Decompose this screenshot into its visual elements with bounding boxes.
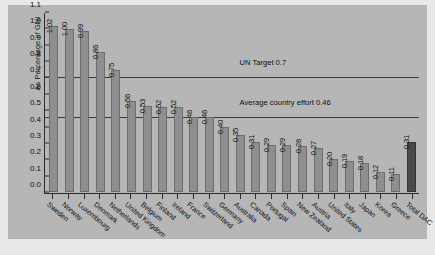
x-tick-slot — [248, 194, 264, 199]
bar-slot: 0.12 — [372, 13, 388, 192]
bar-slot: 0.86 — [93, 13, 109, 192]
x-tick-slot — [92, 194, 108, 199]
y-tick-label: 0.9 — [30, 32, 45, 41]
plot-area: 0.00.10.20.30.40.50.60.70.80.91.01.1 UN … — [44, 13, 419, 194]
bar[interactable]: 0.75 — [111, 70, 120, 192]
bar[interactable]: 0.11 — [391, 174, 400, 192]
x-axis-ticks — [45, 194, 420, 199]
x-label-slot: Italy — [342, 200, 358, 245]
bar[interactable]: 0.53 — [143, 106, 152, 192]
x-tick-slot — [108, 194, 124, 199]
bar-slot: 0.53 — [139, 13, 155, 192]
x-label-slot: United States — [326, 200, 342, 245]
x-label-slot: Portugal — [264, 200, 280, 245]
x-tick-mark — [209, 194, 210, 199]
bar-slot: 0.40 — [217, 13, 233, 192]
x-tick-mark — [396, 194, 397, 199]
x-label-slot: Canada — [248, 200, 264, 245]
x-tick-slot — [45, 194, 61, 199]
bar[interactable]: 0.12 — [376, 172, 385, 192]
x-label-slot: Finland — [154, 200, 170, 245]
x-tick-slot — [170, 194, 186, 199]
x-label-slot: France — [186, 200, 202, 245]
x-tick-slot — [295, 194, 311, 199]
x-label-slot: Spain — [279, 200, 295, 245]
x-label-slot: Germany — [217, 200, 233, 245]
bar[interactable]: 0.40 — [220, 127, 229, 192]
x-tick-mark — [255, 194, 256, 199]
x-label-slot: Luxembourg — [76, 200, 92, 245]
bar-slot: 0.52 — [170, 13, 186, 192]
bar-slot: 0.31 — [404, 13, 420, 192]
bar-value-label: 0.46 — [185, 110, 194, 124]
bar-slot: 0.46 — [201, 13, 217, 192]
x-label-slot: New Zealand — [295, 200, 311, 245]
bar-slot: 0.11 — [388, 13, 404, 192]
bar-value-label: 0.31 — [247, 134, 256, 148]
bar[interactable]: 0.31 — [407, 142, 416, 192]
bar-value-label: 0.29 — [278, 138, 287, 152]
bar[interactable]: 0.28 — [298, 146, 307, 192]
x-tick-slot — [342, 194, 358, 199]
bar-slot: 0.19 — [341, 13, 357, 192]
bar[interactable]: 1.00 — [65, 29, 74, 192]
bar-value-label: 0.18 — [356, 156, 365, 170]
bar-value-label: 0.56 — [123, 94, 132, 108]
x-tick-mark — [318, 194, 319, 199]
bar[interactable]: 0.27 — [314, 148, 323, 192]
bar[interactable]: 0.29 — [267, 145, 276, 192]
bar-value-label: 1.00 — [60, 22, 69, 36]
x-category-label: Italy — [342, 200, 358, 215]
y-tick-label: 0.0 — [30, 180, 45, 189]
x-axis-labels: SwedenNorwayLuxembourgDenmarkNetherlands… — [45, 200, 420, 245]
x-tick-mark — [412, 194, 413, 199]
x-tick-slot — [123, 194, 139, 199]
x-category-label: Total DAC — [404, 200, 434, 227]
x-label-slot: Austria — [311, 200, 327, 245]
x-label-slot: Ireland — [170, 200, 186, 245]
y-tick-label: 0.5 — [30, 98, 45, 107]
bar[interactable]: 0.46 — [189, 117, 198, 192]
bar-value-label: 0.28 — [294, 139, 303, 153]
bar[interactable]: 0.56 — [127, 101, 136, 192]
bar-slot: 0.56 — [124, 13, 140, 192]
x-tick-slot — [358, 194, 374, 199]
x-tick-slot — [201, 194, 217, 199]
bar[interactable]: 0.52 — [174, 107, 183, 192]
x-tick-slot — [217, 194, 233, 199]
x-tick-mark — [99, 194, 100, 199]
bar-slot: 0.75 — [108, 13, 124, 192]
bar-value-label: 0.86 — [91, 45, 100, 59]
bar-value-label: 0.20 — [325, 152, 334, 166]
x-tick-mark — [52, 194, 53, 199]
bar-value-label: 0.99 — [76, 24, 85, 38]
x-tick-mark — [146, 194, 147, 199]
bar[interactable]: 0.35 — [236, 135, 245, 192]
x-tick-mark — [349, 194, 350, 199]
bar-value-label: 0.31 — [402, 134, 411, 148]
bar[interactable]: 0.20 — [329, 159, 338, 192]
bar-value-label: 0.46 — [200, 110, 209, 124]
plot-panel: As Percentage of GNI 0.00.10.20.30.40.50… — [8, 5, 427, 239]
bar[interactable]: 0.86 — [96, 52, 105, 192]
bar[interactable]: 0.52 — [158, 107, 167, 192]
x-tick-mark — [271, 194, 272, 199]
x-tick-slot — [76, 194, 92, 199]
bar[interactable]: 0.29 — [282, 145, 291, 192]
bar[interactable]: 1.02 — [49, 26, 58, 192]
x-tick-mark — [302, 194, 303, 199]
bar[interactable]: 0.31 — [251, 142, 260, 192]
bar-slot: 1.00 — [62, 13, 78, 192]
x-tick-mark — [365, 194, 366, 199]
x-tick-mark — [177, 194, 178, 199]
bar[interactable]: 0.18 — [360, 163, 369, 192]
bar-slot: 0.99 — [77, 13, 93, 192]
bar[interactable]: 0.19 — [345, 161, 354, 192]
bar[interactable]: 0.99 — [80, 31, 89, 192]
x-label-slot: Japan — [358, 200, 374, 245]
bar-slot: 0.31 — [248, 13, 264, 192]
bar[interactable]: 0.46 — [205, 117, 214, 192]
y-tick-label: 0.7 — [30, 65, 45, 74]
x-tick-mark — [334, 194, 335, 199]
bar-value-label: 0.19 — [340, 154, 349, 168]
